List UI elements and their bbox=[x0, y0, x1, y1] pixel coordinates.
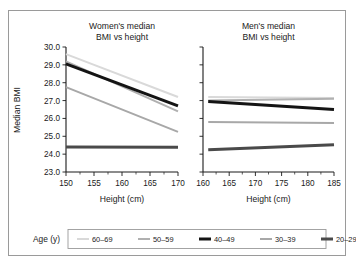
series-line-men-30-39 bbox=[208, 122, 334, 123]
x-axis-tick-label-men: 175 bbox=[275, 179, 289, 188]
series-line-women-60-69 bbox=[66, 54, 178, 97]
x-axis-tick-label-men: 180 bbox=[301, 179, 315, 188]
series-line-men-60-69 bbox=[208, 97, 334, 98]
panel-title-line1-men: Men's median bbox=[242, 21, 295, 31]
x-axis-tick-label-men: 160 bbox=[196, 179, 210, 188]
panel-title-line2-men: BMI vs height bbox=[242, 32, 295, 42]
series-line-women-30-39 bbox=[66, 87, 178, 132]
y-axis-title: Median BMI bbox=[12, 87, 22, 133]
panel-title-line1-women: Women's median bbox=[89, 21, 155, 31]
x-axis-group-men: 160165170175180185Height (cm) bbox=[196, 172, 341, 204]
x-axis-tick-label-women: 155 bbox=[87, 179, 101, 188]
series-group-men bbox=[208, 97, 334, 150]
legend-label-40-49: 40–49 bbox=[214, 235, 235, 244]
series-group-women bbox=[66, 54, 178, 147]
chart-canvas: Median BMI30.029.028.027.026.025.024.023… bbox=[0, 0, 356, 266]
y-axis-tick-label: 24.0 bbox=[44, 150, 60, 159]
x-axis-tick-label-men: 170 bbox=[249, 179, 263, 188]
legend-group: Age (y)60–6950–5940–4930–3920–29 bbox=[33, 230, 356, 249]
legend-label-30-39: 30–39 bbox=[275, 235, 296, 244]
y-axis-tick-label: 25.0 bbox=[44, 132, 60, 141]
x-axis-tick-label-women: 150 bbox=[59, 179, 73, 188]
x-axis-tick-label-women: 165 bbox=[143, 179, 157, 188]
figure-root: Median BMI30.029.028.027.026.025.024.023… bbox=[0, 0, 356, 266]
y-axis-tick-label: 28.0 bbox=[44, 79, 60, 88]
series-line-men-40-49 bbox=[208, 101, 334, 109]
x-axis-tick-label-men: 165 bbox=[222, 179, 236, 188]
y-axis-tick-label: 29.0 bbox=[44, 61, 60, 70]
y-axis-group: 30.029.028.027.026.025.024.023.0 bbox=[44, 43, 66, 177]
y-axis-tick-label: 23.0 bbox=[44, 168, 60, 177]
panel-title-group-women: Women's medianBMI vs height bbox=[89, 21, 155, 42]
y-axis-tick-label: 27.0 bbox=[44, 97, 60, 106]
series-line-men-50-59 bbox=[208, 99, 334, 101]
legend-label-50-59: 50–59 bbox=[153, 235, 174, 244]
legend-title: Age (y) bbox=[33, 234, 60, 244]
x-axis-tick-label-women: 160 bbox=[115, 179, 129, 188]
series-line-women-40-49 bbox=[66, 64, 178, 106]
panel-title-group-men: Men's medianBMI vs height bbox=[242, 21, 295, 42]
panel-title-line2-women: BMI vs height bbox=[96, 32, 149, 42]
x-axis-group-women: 150155160165170Height (cm) bbox=[59, 172, 185, 204]
x-axis-tick-label-men: 185 bbox=[327, 179, 341, 188]
x-axis-title-women: Height (cm) bbox=[100, 194, 145, 204]
legend-label-60-69: 60–69 bbox=[92, 235, 113, 244]
legend-label-20-29: 20–29 bbox=[336, 235, 356, 244]
series-line-men-20-29 bbox=[208, 145, 334, 150]
y-axis-tick-label: 26.0 bbox=[44, 114, 60, 123]
x-axis-title-men: Height (cm) bbox=[246, 194, 291, 204]
y-axis-label-group: Median BMI bbox=[12, 87, 22, 133]
y-axis-tick-label: 30.0 bbox=[44, 43, 60, 52]
x-axis-tick-label-women: 170 bbox=[171, 179, 185, 188]
right-y-axis-group bbox=[200, 47, 204, 172]
